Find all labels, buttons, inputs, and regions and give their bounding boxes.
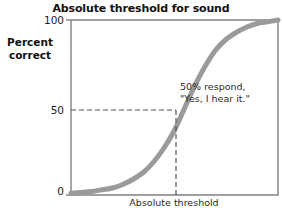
threshold-callout-line-1: 50% respond, bbox=[180, 81, 276, 93]
chart-figure: Absolute threshold for sound Percent cor… bbox=[0, 0, 282, 217]
threshold-callout-line-2: "Yes, I hear it." bbox=[180, 93, 276, 105]
x-axis-label: Absolute threshold bbox=[104, 197, 244, 208]
plot-area bbox=[0, 0, 282, 217]
axis-frame bbox=[71, 20, 278, 195]
psychometric-curve bbox=[71, 20, 278, 193]
threshold-callout: 50% respond, "Yes, I hear it." bbox=[180, 81, 276, 105]
